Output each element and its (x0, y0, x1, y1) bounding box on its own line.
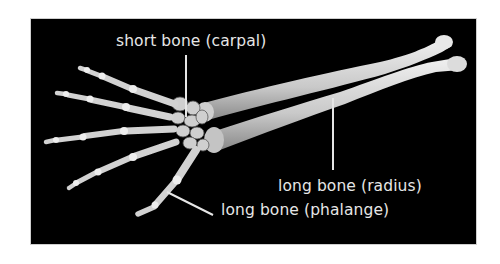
label-long-bone-radius: long bone (radius) (278, 179, 422, 195)
label-short-bone-carpal: short bone (carpal) (116, 34, 266, 50)
label-long-bone-phalange: long bone (phalange) (221, 203, 389, 219)
phalange-leader-line (167, 192, 213, 215)
skeleton-figure: short bone (carpal) long bone (radius) l… (31, 19, 476, 244)
finger-bones (46, 68, 196, 214)
